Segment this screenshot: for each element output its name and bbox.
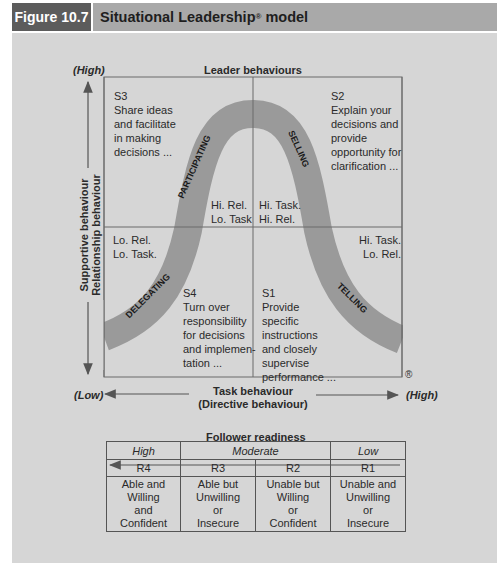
level-high: High xyxy=(107,442,181,460)
s1-corner-line: Hi. Task. xyxy=(359,233,401,247)
s1-line: instructions xyxy=(262,328,336,342)
s3-code: S3 xyxy=(114,89,176,103)
quadrant-s4: S4 Turn over responsibility for decision… xyxy=(183,286,256,370)
desc-line: Willing xyxy=(107,491,180,504)
desc-r1: Unable and Unwilling or Insecure xyxy=(331,477,406,532)
s4-corner-label: Lo. Rel. Lo. Task. xyxy=(113,233,157,261)
y-axis-high-label: (High) xyxy=(73,63,105,77)
s3-corner-line: Hi. Rel. xyxy=(211,198,252,212)
desc-line: Unwilling xyxy=(331,491,405,504)
level-low: Low xyxy=(331,442,406,460)
x-axis-label-line2: (Directive behaviour) xyxy=(193,398,313,411)
registered-mark-diagram: ® xyxy=(405,369,412,380)
s2-line: provide xyxy=(331,131,401,145)
s4-line: and implemen- xyxy=(183,342,256,356)
s4-line: Turn over xyxy=(183,300,256,314)
x-axis-low-label: (Low) xyxy=(74,388,103,402)
s4-corner-line: Lo. Task. xyxy=(113,247,157,261)
readiness-description-row: Able and Willing and Confident Able but … xyxy=(107,477,406,532)
desc-r3: Able but Unwilling or Insecure xyxy=(181,477,256,532)
s1-line: supervise xyxy=(262,356,336,370)
desc-line: Confident xyxy=(256,517,330,530)
desc-line: Confident xyxy=(107,517,180,530)
s2-line: decisions and xyxy=(331,117,401,131)
s2-line: opportunity for xyxy=(331,145,401,159)
s4-line: for decisions xyxy=(183,328,256,342)
s1-line: performance ... xyxy=(262,370,336,384)
readiness-level-row: High Moderate Low xyxy=(107,442,406,460)
desc-line: Unable but xyxy=(256,478,330,491)
desc-line: Able and xyxy=(107,478,180,491)
s2-code: S2 xyxy=(331,89,401,103)
code-r2: R2 xyxy=(256,460,331,477)
s3-line: in making xyxy=(114,131,176,145)
desc-line: Unable and xyxy=(331,478,405,491)
code-r1: R1 xyxy=(331,460,406,477)
s4-corner-line: Lo. Rel. xyxy=(113,233,157,247)
desc-line: and xyxy=(107,504,180,517)
x-axis-label: Task behaviour (Directive behaviour) xyxy=(193,385,313,411)
s1-corner-label: Hi. Task. Lo. Rel. xyxy=(359,233,401,261)
x-axis-label-line1: Task behaviour xyxy=(193,385,313,398)
desc-line: Insecure xyxy=(331,517,405,530)
s2-line: Explain your xyxy=(331,103,401,117)
desc-line: or xyxy=(331,504,405,517)
desc-line: Willing xyxy=(256,491,330,504)
desc-line: Insecure xyxy=(181,517,255,530)
follower-readiness-table: High Moderate Low R4 R3 R2 R1 Able and W… xyxy=(106,441,406,532)
quadrant-s3: S3 Share ideas and facilitate in making … xyxy=(114,89,176,159)
y-axis-label-line2: Relationship behaviour xyxy=(90,170,102,300)
s3-corner-line: Lo. Task xyxy=(211,212,252,226)
desc-line: Unwilling xyxy=(181,491,255,504)
s4-line: tation ... xyxy=(183,356,256,370)
s1-line: and closely xyxy=(262,342,336,356)
desc-r4: Able and Willing and Confident xyxy=(107,477,181,532)
s1-corner-line: Lo. Rel. xyxy=(359,247,401,261)
x-axis-high-label: (High) xyxy=(406,388,438,402)
desc-line: Able but xyxy=(181,478,255,491)
s1-code: S1 xyxy=(262,286,336,300)
desc-r2: Unable but Willing or Confident xyxy=(256,477,331,532)
s3-line: and facilitate xyxy=(114,117,176,131)
y-axis-label-line1: Supportive behaviour xyxy=(78,170,90,300)
s1-line: specific xyxy=(262,314,336,328)
s4-code: S4 xyxy=(183,286,256,300)
s2-line: clarification ... xyxy=(331,159,401,173)
desc-line: or xyxy=(256,504,330,517)
s2-corner-label: Hi. Task. Hi. Rel. xyxy=(259,198,301,226)
s3-line: decisions ... xyxy=(114,145,176,159)
leader-behaviours-label: Leader behaviours xyxy=(204,63,302,77)
quadrant-s1: S1 Provide specific instructions and clo… xyxy=(262,286,336,384)
code-r4: R4 xyxy=(107,460,181,477)
desc-line: or xyxy=(181,504,255,517)
s3-line: Share ideas xyxy=(114,103,176,117)
quadrant-s2: S2 Explain your decisions and provide op… xyxy=(331,89,401,173)
s3-corner-label: Hi. Rel. Lo. Task xyxy=(211,198,252,226)
code-r3: R3 xyxy=(181,460,256,477)
s2-corner-line: Hi. Task. xyxy=(259,198,301,212)
s1-line: Provide xyxy=(262,300,336,314)
s2-corner-line: Hi. Rel. xyxy=(259,212,301,226)
readiness-code-row: R4 R3 R2 R1 xyxy=(107,460,406,477)
s4-line: responsibility xyxy=(183,314,256,328)
level-moderate: Moderate xyxy=(181,442,331,460)
